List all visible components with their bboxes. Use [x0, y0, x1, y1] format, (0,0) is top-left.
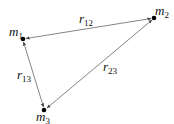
node-m2-label: m2	[155, 3, 169, 20]
three-body-diagram: m1 m2 m3 r12 r13 r23	[0, 0, 174, 124]
node-m1-label: m1	[9, 24, 23, 41]
edge-r23-label: r23	[103, 59, 118, 76]
edge-r23	[47, 20, 152, 108]
node-m3-label: m3	[36, 109, 50, 124]
edge-r13-label: r13	[17, 67, 32, 84]
edge-r12-label: r12	[79, 11, 93, 28]
